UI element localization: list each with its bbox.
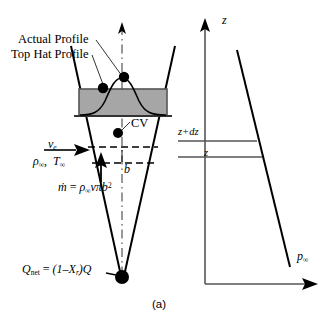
actual-profile-marker-dot — [119, 72, 129, 82]
ambient-temperature-symbol: T — [53, 154, 60, 168]
control-volume-label: CV — [131, 117, 148, 130]
ambient-pressure-curve — [237, 50, 290, 267]
entrainment-arrowhead-icon — [74, 144, 90, 156]
pressure-axis-label: p∞ — [297, 250, 308, 264]
actual-profile-leader — [96, 40, 122, 76]
pressure-subscript: ∞ — [303, 255, 308, 264]
actual-profile-label: Actual Profile — [18, 33, 88, 46]
cv-leader — [122, 122, 130, 130]
exit-velocity-subscript: e — [53, 143, 56, 152]
qnet-leader — [106, 273, 116, 275]
mass-flow-lhs: ṁ — [58, 180, 67, 194]
z-axis-label: z — [222, 14, 227, 26]
cv-marker-dot — [113, 128, 123, 138]
net-heat-equation: Qnet = (1–Xr)Q — [22, 263, 91, 277]
net-heat-equals: = — [43, 262, 50, 276]
figure-caption: (a) — [152, 299, 166, 311]
z-level-label: z — [204, 148, 208, 159]
mass-flow-area-term: πb — [96, 180, 108, 194]
net-heat-rhs-open: (1–X — [53, 262, 76, 276]
top-hat-profile-marker-dot — [98, 83, 108, 93]
exit-velocity-label: ve — [48, 138, 57, 152]
plume-radius-label: b — [124, 163, 130, 175]
cone-left-edge — [71, 46, 121, 276]
net-heat-rhs-close: )Q — [79, 262, 92, 276]
label-comma: , — [44, 154, 53, 168]
mass-flow-exponent: 2 — [108, 181, 112, 190]
z-plus-dz-label: z+dz — [178, 127, 199, 138]
mass-flow-equals: = — [70, 180, 77, 194]
ambient-temperature-subscript: ∞ — [60, 160, 65, 169]
mass-flow-equation: ṁ = ρ∞vπb2 — [58, 181, 112, 195]
top-hat-profile-leader — [92, 55, 104, 87]
ambient-conditions-label: ρ∞, T∞ — [33, 155, 65, 169]
heat-source-point — [115, 270, 129, 284]
cone-right-edge — [124, 46, 175, 276]
net-heat-lhs: Q — [22, 262, 31, 276]
top-hat-profile-label: Top Hat Profile — [11, 48, 89, 61]
net-heat-lhs-subscript: net — [31, 268, 40, 277]
top-hat-profile-rect — [79, 89, 167, 116]
